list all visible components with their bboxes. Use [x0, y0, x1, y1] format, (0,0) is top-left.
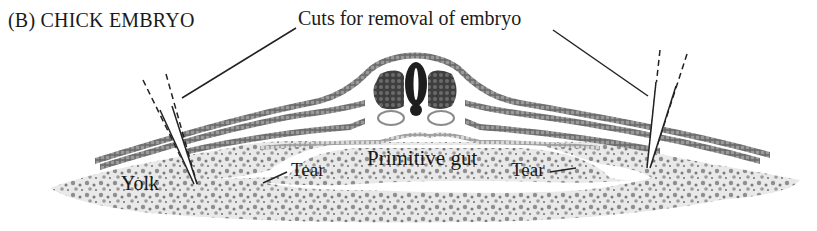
label-tear-left: Tear	[291, 160, 324, 179]
somite-left	[373, 70, 404, 109]
somite-right	[428, 70, 457, 109]
neural-canal	[414, 68, 419, 100]
notochord	[410, 104, 422, 116]
label-yolk: Yolk	[121, 173, 159, 193]
label-tear-right: Tear	[511, 160, 544, 179]
leader-cuts-left	[182, 28, 296, 98]
dorsal-aorta-right	[428, 111, 454, 125]
cut-right	[647, 50, 687, 168]
label-primitive-gut: Primitive gut	[367, 148, 477, 169]
panel-title: (B) CHICK EMBRYO	[8, 10, 195, 30]
leader-cuts-right	[553, 30, 648, 96]
dorsal-aorta-left	[378, 111, 404, 125]
label-cuts-for-removal: Cuts for removal of embryo	[298, 8, 521, 28]
chick-embryo-diagram: (B) CHICK EMBRYO Cuts for removal of emb…	[0, 0, 817, 231]
embryo-cross-section-illustration	[0, 0, 817, 231]
